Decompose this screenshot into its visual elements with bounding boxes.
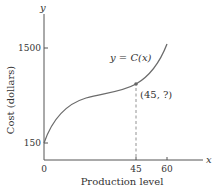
x-tick-label-0: 0 xyxy=(41,164,47,174)
point-45 xyxy=(134,82,138,86)
y-axis-symbol: y xyxy=(39,2,46,13)
y-tick-label-150: 150 xyxy=(24,138,41,148)
x-axis-label: Production level xyxy=(81,176,164,187)
point-label: (45, ?) xyxy=(140,89,172,100)
y-tick-label-1500: 1500 xyxy=(18,43,41,53)
x-tick-label-45: 45 xyxy=(130,164,142,174)
x-axis-symbol: x xyxy=(206,154,212,165)
cost-chart: y x 1500 150 0 45 60 Production level Co… xyxy=(0,0,215,188)
x-tick-label-60: 60 xyxy=(161,164,173,174)
curve-label: y = C(x) xyxy=(109,52,152,63)
y-axis-label: Cost (dollars) xyxy=(5,66,16,135)
